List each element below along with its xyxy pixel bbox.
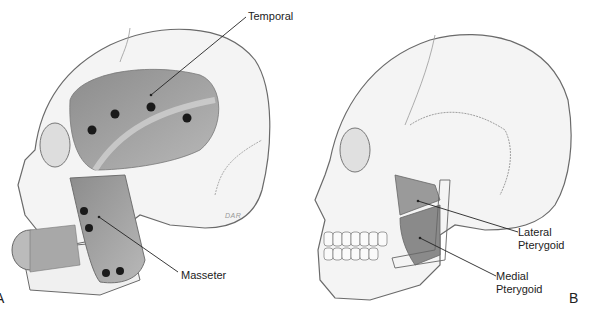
anatomy-figure: Temporal Masseter DAR A bbox=[0, 0, 592, 311]
artist-signature: DAR bbox=[225, 212, 241, 219]
panel-letter-b: B bbox=[569, 290, 578, 306]
label-lateral-line2: Pterygoid bbox=[518, 239, 564, 251]
label-lateral-pterygoid: Lateral Pterygoid bbox=[518, 226, 564, 252]
label-medial-pterygoid: Medial Pterygoid bbox=[496, 270, 542, 296]
skull-illustration-b bbox=[300, 0, 592, 311]
panel-letter-a: A bbox=[0, 290, 4, 306]
panel-b-skull-pterygoids: Lateral Pterygoid Medial Pterygoid B bbox=[300, 0, 592, 311]
skull-illustration-a bbox=[0, 0, 300, 311]
panel-a-skull-temporal-masseter: Temporal Masseter DAR A bbox=[0, 0, 300, 311]
label-temporal: Temporal bbox=[248, 10, 293, 23]
label-masseter: Masseter bbox=[181, 269, 226, 282]
label-medial-line2: Pterygoid bbox=[496, 283, 542, 295]
label-medial-line1: Medial bbox=[496, 270, 528, 282]
label-lateral-line1: Lateral bbox=[518, 226, 552, 238]
